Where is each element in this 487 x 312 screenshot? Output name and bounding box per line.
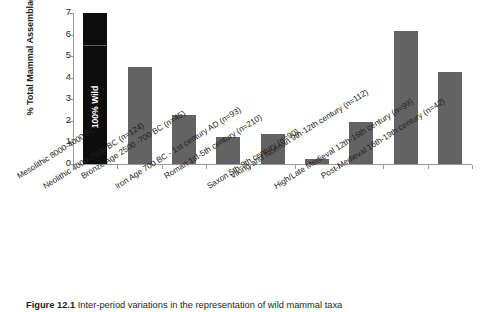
figure-caption: Figure 12.1 Inter-period variations in t… bbox=[26, 299, 466, 312]
bar[interactable]: 100% Wild bbox=[83, 13, 107, 164]
y-axis-tick bbox=[69, 56, 73, 57]
y-tick-label: 6 bbox=[66, 29, 71, 39]
y-axis-tick bbox=[69, 121, 73, 122]
caption-label: Figure 12.1 bbox=[26, 300, 75, 310]
bar-chart: % Total Mammal Assemblage 01234567 100% … bbox=[0, 0, 487, 180]
y-tick-label: 4 bbox=[66, 72, 71, 82]
bar-divider-line bbox=[83, 45, 107, 46]
y-tick-label: 5 bbox=[66, 50, 71, 60]
x-axis-line bbox=[73, 164, 472, 165]
y-axis-tick bbox=[69, 78, 73, 79]
y-axis-tick bbox=[69, 35, 73, 36]
y-tick-label: 3 bbox=[66, 94, 71, 104]
y-tick-label: 2 bbox=[66, 115, 71, 125]
bar[interactable] bbox=[394, 31, 418, 164]
y-axis-tick bbox=[69, 99, 73, 100]
y-axis-tick bbox=[69, 13, 73, 14]
bar[interactable] bbox=[438, 72, 462, 164]
caption-text: Inter-period variations in the represent… bbox=[75, 300, 342, 310]
y-tick-label: 7 bbox=[66, 7, 71, 17]
x-axis-category-labels: Mesolithic 8000-4000 BCNeolithic 4000-25… bbox=[0, 168, 487, 288]
bar-annotation-label: 100% Wild bbox=[90, 85, 100, 127]
y-axis-title: % Total Mammal Assemblage bbox=[25, 0, 35, 123]
figure-12-1: % Total Mammal Assemblage 01234567 100% … bbox=[0, 0, 487, 312]
